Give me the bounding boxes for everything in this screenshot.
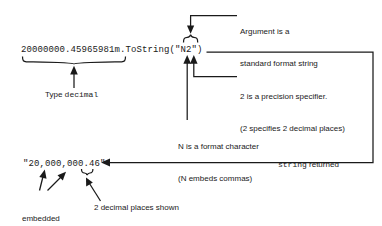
brace-under-decimal-literal bbox=[23, 57, 126, 65]
arrow-format-character bbox=[183, 55, 191, 120]
code-expression: 20000000.45965981m.ToString("N2") bbox=[21, 45, 203, 56]
annotation-string-returned: string returned bbox=[278, 160, 339, 171]
result-string: "20,000,000.46" bbox=[23, 159, 106, 170]
annotation-embedded-commas-line1: embedded bbox=[22, 214, 60, 225]
annotation-argument-line2: standard format string bbox=[240, 59, 318, 70]
annotation-embedded-commas: embedded commas bbox=[22, 193, 60, 226]
brace-over-argument bbox=[184, 35, 198, 43]
annotation-string-returned-suffix: returned bbox=[307, 160, 339, 169]
arrow-decimal-places bbox=[86, 178, 101, 202]
diagram-canvas: 20000000.45965981m.ToString("N2") "20,00… bbox=[0, 0, 382, 226]
annotation-string-returned-keyword: string bbox=[278, 160, 307, 169]
annotation-type-decimal: Type decimal bbox=[45, 90, 98, 101]
annotation-type-decimal-prefix: Type bbox=[45, 90, 65, 99]
annotation-format-character-line1: N is a format character bbox=[178, 142, 259, 153]
result-string-text: "20,000,000.46" bbox=[23, 159, 106, 169]
arrow-type-decimal bbox=[70, 66, 78, 88]
annotation-decimal-places-text: 2 decimal places shown bbox=[94, 203, 179, 212]
annotation-type-decimal-keyword: decimal bbox=[65, 90, 99, 99]
code-expression-text: 20000000.45965981m.ToString("N2") bbox=[21, 45, 203, 55]
annotation-format-character: N is a format character (N embeds commas… bbox=[178, 121, 259, 205]
arrow-precision-specifier bbox=[190, 55, 237, 77]
arrow-argument-to-brace bbox=[187, 16, 237, 34]
arrows-embedded-commas bbox=[39, 170, 66, 191]
annotation-precision-line1: 2 is a precision specifier. bbox=[240, 92, 345, 103]
annotation-format-character-line2: (N embeds commas) bbox=[178, 174, 259, 185]
annotation-decimal-places: 2 decimal places shown bbox=[94, 203, 179, 214]
annotation-argument-line1: Argument is a bbox=[240, 27, 318, 38]
brace-under-decimal-digits bbox=[82, 169, 93, 175]
